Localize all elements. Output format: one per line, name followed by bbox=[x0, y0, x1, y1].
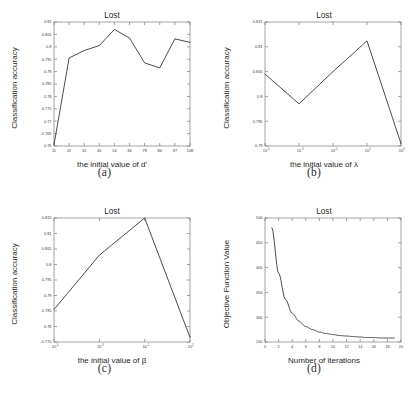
x-tick-label: 66 bbox=[127, 148, 131, 153]
panel-b-plot: Lost the initial value of λ Classificati… bbox=[209, 0, 419, 172]
x-tick-label: 10-3 bbox=[297, 147, 304, 153]
x-tick-label: 101 bbox=[365, 147, 371, 153]
panel-a-ylabel: Classification accuracy bbox=[10, 47, 19, 128]
panel-d-ylabel: Objective Function Value bbox=[222, 239, 231, 328]
panel-c-svg: Lost the initial value of β Classificati… bbox=[0, 196, 209, 368]
x-tick-label: 54 bbox=[112, 148, 117, 153]
panel-a-axes-frame bbox=[54, 22, 190, 146]
x-tick-label: 11 bbox=[52, 148, 56, 153]
x-tick-label: 20 bbox=[399, 344, 404, 349]
panel-a-plot: Lost the initial value of d' Classificat… bbox=[0, 0, 209, 172]
panel-d-axes-frame bbox=[265, 218, 401, 342]
x-tick-label: 0 bbox=[264, 344, 267, 349]
y-tick-label: 0.78 bbox=[44, 94, 52, 99]
y-tick-label: 0.815 bbox=[42, 215, 52, 220]
panel-c-plot: Lost the initial value of β Classificati… bbox=[0, 196, 209, 368]
y-tick-label: 0.795 bbox=[42, 277, 52, 282]
x-tick-label: 14 bbox=[358, 344, 363, 349]
panel-a-y-ticks: 0.810.8050.80.7950.790.7850.780.7750.770… bbox=[42, 19, 190, 148]
panel-d-x-ticks: 02468101214161820 bbox=[264, 218, 404, 349]
panel-a-x-ticks: 112232405466788697108 bbox=[52, 22, 193, 153]
panel-b-y-ticks: 0.8150.810.8050.80.7950.79 bbox=[253, 19, 401, 148]
panel-a: Lost the initial value of d' Classificat… bbox=[0, 0, 209, 196]
panel-b: Lost the initial value of λ Classificati… bbox=[209, 0, 419, 196]
x-tick-label: 10-5 bbox=[52, 343, 59, 349]
panel-b-ylabel: Classification accuracy bbox=[222, 47, 231, 128]
panel-d-title: Lost bbox=[316, 207, 332, 216]
panel-c-caption: (c) bbox=[0, 362, 209, 374]
x-tick-label: 10-5 bbox=[263, 147, 270, 153]
y-tick-label: 0.785 bbox=[42, 81, 52, 86]
y-tick-label: 0.79 bbox=[44, 69, 52, 74]
y-tick-label: 0.775 bbox=[42, 339, 52, 344]
x-tick-label: 78 bbox=[143, 148, 147, 153]
panel-d-plot: Lost Number of iterations Objective Func… bbox=[209, 196, 419, 368]
panel-b-x-ticks: 10-510-310-1101103 bbox=[263, 22, 405, 153]
y-tick-label: 0.815 bbox=[253, 19, 263, 24]
x-tick-label: 22 bbox=[67, 148, 71, 153]
y-tick-label: 0.795 bbox=[253, 119, 263, 124]
panel-a-svg: Lost the initial value of d' Classificat… bbox=[0, 0, 209, 172]
y-tick-label: 0.765 bbox=[42, 131, 52, 136]
y-tick-label: 0.795 bbox=[42, 57, 52, 62]
panel-d-data-line bbox=[272, 228, 394, 338]
x-tick-label: 10-3 bbox=[97, 343, 104, 349]
panel-c: Lost the initial value of β Classificati… bbox=[0, 196, 209, 393]
panel-c-data-line bbox=[54, 218, 190, 337]
y-tick-label: 0.81 bbox=[44, 19, 52, 24]
y-tick-label: 0.805 bbox=[253, 69, 263, 74]
y-tick-label: 300 bbox=[256, 315, 263, 320]
y-tick-label: 0.79 bbox=[44, 293, 52, 298]
x-tick-label: 97 bbox=[173, 148, 177, 153]
panel-a-data-line bbox=[54, 29, 190, 144]
panel-d-y-ticks: 500450400350300250 bbox=[256, 215, 401, 344]
panel-b-title: Lost bbox=[316, 11, 332, 20]
x-tick-label: 10-1 bbox=[142, 343, 149, 349]
x-tick-label: 8 bbox=[318, 344, 320, 349]
x-tick-label: 16 bbox=[372, 344, 376, 349]
figure-panel-grid: Lost the initial value of d' Classificat… bbox=[0, 0, 419, 393]
x-tick-label: 86 bbox=[158, 148, 162, 153]
x-tick-label: 4 bbox=[291, 344, 294, 349]
panel-b-svg: Lost the initial value of λ Classificati… bbox=[209, 0, 419, 172]
panel-b-caption: (b) bbox=[209, 166, 419, 178]
x-tick-label: 103 bbox=[399, 147, 405, 153]
panel-d-caption: (d) bbox=[209, 362, 419, 374]
x-tick-label: 10-1 bbox=[331, 147, 338, 153]
x-tick-label: 32 bbox=[82, 148, 86, 153]
panel-c-ylabel: Classification accuracy bbox=[10, 243, 19, 324]
x-tick-label: 12 bbox=[344, 344, 348, 349]
panel-c-x-ticks: 10-510-310-1101 bbox=[52, 218, 194, 349]
y-tick-label: 250 bbox=[256, 339, 263, 344]
y-tick-label: 0.81 bbox=[44, 231, 52, 236]
panel-d-svg: Lost Number of iterations Objective Func… bbox=[209, 196, 419, 368]
panel-a-title: Lost bbox=[104, 11, 120, 20]
x-tick-label: 10 bbox=[331, 344, 336, 349]
panel-b-data-line bbox=[265, 41, 401, 144]
y-tick-label: 0.8 bbox=[257, 94, 262, 99]
y-tick-label: 0.8 bbox=[46, 44, 51, 49]
panel-d: Lost Number of iterations Objective Func… bbox=[209, 196, 419, 393]
panel-c-title: Lost bbox=[104, 207, 120, 216]
y-tick-label: 0.805 bbox=[42, 246, 52, 251]
y-tick-label: 450 bbox=[256, 240, 263, 245]
y-tick-label: 0.76 bbox=[44, 143, 52, 148]
x-tick-label: 2 bbox=[278, 344, 280, 349]
panel-a-caption: (a) bbox=[0, 166, 209, 178]
y-tick-label: 0.77 bbox=[44, 119, 52, 124]
y-tick-label: 0.81 bbox=[255, 44, 263, 49]
y-tick-label: 400 bbox=[256, 265, 263, 270]
x-tick-label: 6 bbox=[305, 344, 307, 349]
panel-b-axes-frame bbox=[265, 22, 401, 146]
y-tick-label: 500 bbox=[256, 215, 263, 220]
y-tick-label: 0.785 bbox=[42, 308, 52, 313]
y-tick-label: 0.805 bbox=[42, 32, 52, 37]
x-tick-label: 40 bbox=[97, 148, 102, 153]
x-tick-label: 101 bbox=[188, 343, 194, 349]
y-tick-label: 0.79 bbox=[255, 143, 263, 148]
x-tick-label: 18 bbox=[385, 344, 389, 349]
x-tick-label: 108 bbox=[187, 148, 194, 153]
y-tick-label: 0.775 bbox=[42, 106, 52, 111]
y-tick-label: 0.8 bbox=[46, 262, 51, 267]
y-tick-label: 0.78 bbox=[44, 324, 52, 329]
